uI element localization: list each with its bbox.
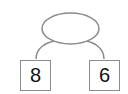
left-connector xyxy=(36,41,56,59)
part-box-left[interactable]: 8 xyxy=(20,60,51,91)
part-value-left: 8 xyxy=(30,64,41,87)
right-connector xyxy=(85,41,104,59)
whole-ellipse[interactable] xyxy=(42,13,99,44)
part-value-right: 6 xyxy=(99,64,110,87)
part-box-right[interactable]: 6 xyxy=(89,60,120,91)
